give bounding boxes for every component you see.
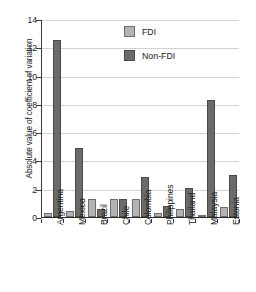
bar-fdi xyxy=(176,209,184,217)
y-tick-label: 12 xyxy=(13,43,37,53)
bar-fdi xyxy=(44,213,52,217)
x-category-label: Chile xyxy=(121,206,131,225)
y-tick-label: 10 xyxy=(13,72,37,82)
legend-swatch-fdi-icon xyxy=(124,26,135,37)
y-tick-label: 6 xyxy=(13,128,37,138)
x-category-label: Malaysia xyxy=(209,192,219,225)
bar-fdi xyxy=(132,199,140,217)
legend-item-fdi: FDI xyxy=(124,26,175,37)
bar-fdi xyxy=(66,211,74,217)
bar-group xyxy=(42,20,64,217)
x-category-label: Thailand xyxy=(187,193,197,225)
x-category-label: Estonia xyxy=(231,197,241,225)
y-tick-label: 2 xyxy=(13,185,37,195)
x-category-label: Philippines xyxy=(165,185,175,225)
bar-fdi xyxy=(110,199,118,217)
x-category-label: Brazil xyxy=(99,204,109,225)
y-tick-label: 0 xyxy=(13,213,37,223)
bar-fdi xyxy=(88,199,96,217)
chart-figure: Absolute value of coefficient of variati… xyxy=(0,0,256,292)
bar-group xyxy=(86,20,108,217)
legend-label-fdi: FDI xyxy=(142,27,156,37)
bar-group xyxy=(64,20,86,217)
legend-item-non-fdi: Non-FDI xyxy=(124,50,175,61)
bar-group xyxy=(218,20,240,217)
x-category-label: Argentina xyxy=(55,189,65,225)
bar-fdi xyxy=(220,207,228,217)
bar-group xyxy=(174,20,196,217)
legend-label-non-fdi: Non-FDI xyxy=(142,51,175,61)
y-tick-label: 14 xyxy=(13,15,37,25)
chart-legend: FDI Non-FDI xyxy=(124,26,175,74)
bar-fdi xyxy=(198,215,206,217)
bar-group xyxy=(196,20,218,217)
x-category-label: Mexico xyxy=(77,198,87,225)
y-tick-label: 4 xyxy=(13,156,37,166)
x-tick-mark xyxy=(41,219,42,223)
x-category-label: Colombia xyxy=(143,189,153,225)
legend-swatch-non-fdi-icon xyxy=(124,50,135,61)
y-tick-label: 8 xyxy=(13,100,37,110)
bar-fdi xyxy=(154,213,162,217)
